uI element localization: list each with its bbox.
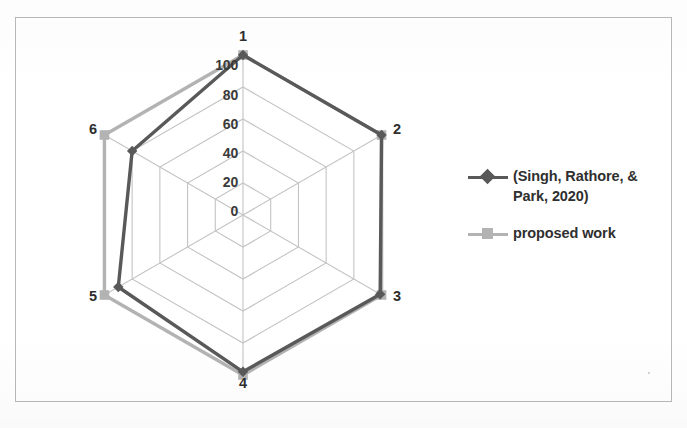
radar-chart-svg	[15, 17, 465, 402]
vertex-label-1: 1	[239, 28, 247, 44]
vertex-label-5: 5	[89, 288, 97, 304]
chart-legend: (Singh, Rathore, & Park, 2020) proposed …	[468, 166, 668, 260]
vertex-label-4: 4	[239, 375, 247, 391]
axis-spoke-2	[243, 135, 382, 215]
tick-label-100: 100	[198, 57, 238, 73]
tick-label-80: 80	[204, 87, 238, 103]
chart-page: 100 80 60 40 20 0 1 2 3 4 5 6 (Singh, Ra…	[0, 0, 687, 428]
legend-label-proposed: proposed work	[513, 223, 616, 243]
legend-key-proposed	[468, 225, 508, 243]
series-1	[113, 50, 387, 377]
vertex-label-3: 3	[393, 288, 401, 304]
tick-label-0: 0	[211, 203, 238, 219]
tick-label-60: 60	[204, 116, 238, 132]
legend-entry-singh[interactable]: (Singh, Rathore, & Park, 2020)	[468, 166, 668, 206]
scan-speck	[648, 372, 650, 374]
series-2-point-6	[100, 130, 110, 140]
axis-spoke-3	[243, 215, 382, 295]
legend-entry-proposed[interactable]: proposed work	[468, 223, 668, 243]
legend-label-singh: (Singh, Rathore, & Park, 2020)	[513, 166, 665, 206]
spoke-group	[104, 55, 381, 375]
vertex-label-6: 6	[89, 121, 97, 137]
diamond-marker-icon	[480, 169, 496, 185]
vertex-label-2: 2	[393, 121, 401, 137]
radar-chart: 100 80 60 40 20 0 1 2 3 4 5 6	[15, 17, 465, 402]
square-marker-icon	[482, 228, 493, 239]
tick-label-40: 40	[204, 145, 238, 161]
tick-label-20: 20	[204, 174, 238, 190]
legend-key-singh	[468, 168, 508, 186]
series-2-point-5	[100, 290, 110, 300]
